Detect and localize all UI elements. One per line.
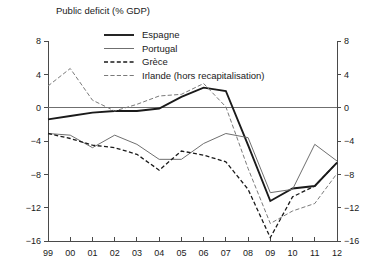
x-axis-tick-labels: 9900010203040506070809101112 <box>43 248 342 258</box>
y-tick-label-left: −8 <box>31 170 41 180</box>
x-tick-label: 02 <box>110 248 120 258</box>
series-line-2 <box>48 134 337 238</box>
legend-label-3: Irlande (hors recapitalisation) <box>142 70 265 81</box>
y-tick-label-right: −8 <box>344 170 354 180</box>
x-tick-label: 00 <box>65 248 75 258</box>
x-tick-label: 03 <box>132 248 142 258</box>
legend-label-2: Grèce <box>142 56 168 67</box>
series-line-1 <box>48 134 337 193</box>
y-tick-label-right: 4 <box>344 70 349 80</box>
y-tick-label-left: 4 <box>36 70 41 80</box>
y-tick-label-left: −12 <box>26 203 41 213</box>
y-tick-label-left: −4 <box>31 136 41 146</box>
x-tick-label: 08 <box>243 248 253 258</box>
x-tick-label: 07 <box>221 248 231 258</box>
y-axis-right-tick-labels: 840−4−8−12−16 <box>344 36 359 246</box>
y-tick-label-right: 8 <box>344 36 349 46</box>
x-tick-label: 12 <box>332 248 342 258</box>
x-tick-label: 09 <box>265 248 275 258</box>
x-tick-label: 04 <box>154 248 164 258</box>
y-tick-label-right: −16 <box>344 236 359 246</box>
x-tick-label: 06 <box>199 248 209 258</box>
legend-label-1: Portugal <box>142 43 177 54</box>
data-series-group <box>48 69 337 238</box>
x-tick-label: 10 <box>288 248 298 258</box>
legend-label-0: Espagne <box>142 29 180 40</box>
x-tick-label: 11 <box>310 248 319 258</box>
chart-title-group: Public deficit (% GDP) <box>56 5 150 16</box>
chart-legend: EspagnePortugalGrèceIrlande (hors recapi… <box>104 29 265 81</box>
y-tick-label-left: 0 <box>36 103 41 113</box>
series-line-0 <box>48 88 337 201</box>
chart-container: Public deficit (% GDP) 840−4−8−12−16 840… <box>0 0 381 272</box>
y-axis-left-tick-labels: 840−4−8−12−16 <box>26 36 41 246</box>
y-tick-label-right: −12 <box>344 203 359 213</box>
y-tick-label-left: 8 <box>36 36 41 46</box>
chart-title: Public deficit (% GDP) <box>56 5 150 16</box>
y-tick-label-left: −16 <box>26 236 41 246</box>
x-tick-label: 05 <box>176 248 186 258</box>
x-tick-label: 01 <box>87 248 97 258</box>
x-tick-label: 99 <box>43 248 53 258</box>
public-deficit-line-chart: Public deficit (% GDP) 840−4−8−12−16 840… <box>0 0 381 272</box>
y-tick-label-right: 0 <box>344 103 349 113</box>
y-tick-label-right: −4 <box>344 136 354 146</box>
